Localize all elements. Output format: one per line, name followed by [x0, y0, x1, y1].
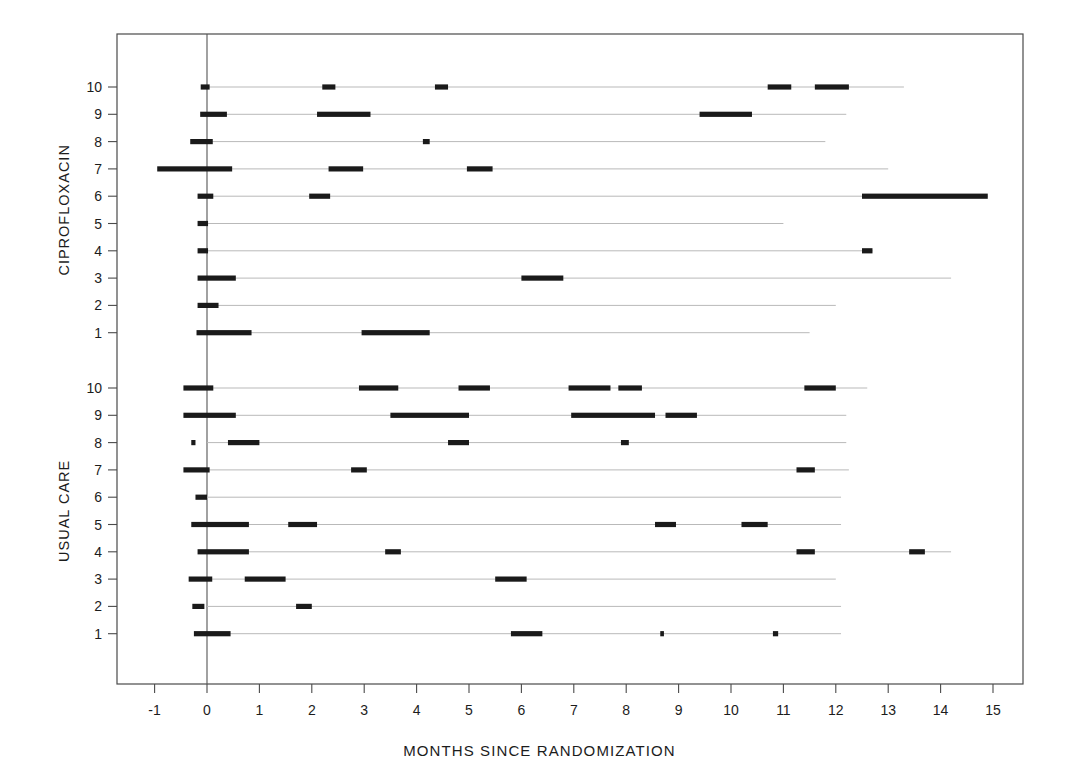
event-segment [296, 604, 312, 609]
event-segment [157, 166, 232, 171]
event-segment [797, 549, 815, 554]
event-segment [201, 84, 210, 89]
y-tick-label: 2 [94, 598, 102, 614]
event-segment [385, 549, 401, 554]
event-segment [191, 440, 195, 445]
x-tick-label: 9 [675, 702, 683, 718]
y-tick-label: 9 [94, 106, 102, 122]
event-segment [245, 577, 286, 582]
event-segment [198, 549, 249, 554]
event-segment [511, 631, 542, 636]
x-axis-title: MONTHS SINCE RANDOMIZATION [0, 742, 1079, 759]
event-segment [700, 112, 752, 117]
event-segment [198, 248, 208, 253]
event-segment [435, 84, 448, 89]
event-segment [815, 84, 849, 89]
event-segment [228, 440, 259, 445]
x-tick-label: 8 [622, 702, 630, 718]
event-segment [198, 194, 214, 199]
x-tick-label: 4 [413, 702, 421, 718]
plot-frame [117, 34, 1023, 684]
y-tick-label: 8 [94, 134, 102, 150]
y-tick-label: 1 [94, 325, 102, 341]
event-segment [183, 413, 235, 418]
event-segment [448, 440, 469, 445]
event-segment [195, 495, 207, 500]
y-tick-label: 4 [94, 243, 102, 259]
event-segment [192, 604, 204, 609]
x-tick-label: 6 [518, 702, 526, 718]
event-segment [200, 112, 227, 117]
event-segment [660, 631, 664, 636]
x-tick-label: 14 [933, 702, 949, 718]
event-segment [362, 330, 430, 335]
y-tick-label: 3 [94, 270, 102, 286]
event-segment [521, 276, 563, 281]
event-segment [309, 194, 330, 199]
event-segment [190, 139, 213, 144]
event-segment [390, 413, 469, 418]
y-tick-label: 2 [94, 297, 102, 313]
event-segment [495, 577, 526, 582]
chart-figure: -1012345678910111213141510987654321CIPRO… [0, 0, 1079, 782]
x-tick-label: 12 [828, 702, 844, 718]
event-segment [797, 467, 815, 472]
event-segment [194, 631, 231, 636]
event-segment [862, 194, 988, 199]
y-tick-label: 6 [94, 489, 102, 505]
timeline-plot-svg: -1012345678910111213141510987654321CIPRO… [0, 0, 1079, 782]
x-tick-label: 11 [776, 702, 791, 718]
group-label-usual-care: USUAL CARE [56, 460, 72, 562]
event-segment [317, 112, 370, 117]
x-tick-label: 1 [256, 702, 264, 718]
y-tick-label: 3 [94, 571, 102, 587]
event-segment [666, 413, 697, 418]
y-tick-label: 8 [94, 435, 102, 451]
x-tick-label: 10 [723, 702, 739, 718]
x-tick-label: 2 [308, 702, 316, 718]
x-tick-label: -1 [148, 702, 161, 718]
event-segment [804, 385, 835, 390]
group-label-ciprofloxacin: CIPROFLOXACIN [56, 144, 72, 275]
event-segment [359, 385, 398, 390]
y-tick-label: 5 [94, 216, 102, 232]
y-tick-label: 5 [94, 517, 102, 533]
event-segment [423, 139, 430, 144]
event-segment [655, 522, 676, 527]
event-segment [198, 303, 219, 308]
event-segment [183, 467, 209, 472]
event-segment [909, 549, 925, 554]
event-segment [571, 413, 655, 418]
event-segment [773, 631, 778, 636]
event-segment [618, 385, 642, 390]
y-tick-label: 7 [94, 462, 102, 478]
event-segment [569, 385, 611, 390]
event-segment [741, 522, 767, 527]
y-tick-label: 4 [94, 544, 102, 560]
y-tick-label: 9 [94, 407, 102, 423]
y-tick-label: 10 [86, 79, 102, 95]
event-segment [183, 385, 213, 390]
y-tick-label: 7 [94, 161, 102, 177]
event-segment [191, 522, 249, 527]
x-tick-label: 13 [880, 702, 896, 718]
event-segment [322, 84, 335, 89]
event-segment [467, 166, 493, 171]
x-tick-label: 15 [985, 702, 1001, 718]
event-segment [862, 248, 872, 253]
event-segment [198, 221, 208, 226]
event-segment [288, 522, 317, 527]
y-tick-label: 10 [86, 380, 102, 396]
event-segment [197, 330, 252, 335]
x-tick-label: 5 [465, 702, 473, 718]
y-tick-label: 1 [94, 626, 102, 642]
event-segment [459, 385, 490, 390]
event-segment [198, 276, 236, 281]
event-segment [189, 577, 213, 582]
y-tick-label: 6 [94, 188, 102, 204]
event-segment [768, 84, 792, 89]
event-segment [621, 440, 629, 445]
event-segment [329, 166, 364, 171]
x-tick-label: 7 [570, 702, 578, 718]
event-segment [351, 467, 367, 472]
